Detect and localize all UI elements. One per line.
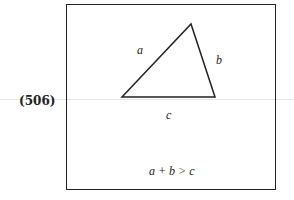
side-label-b: b xyxy=(216,53,222,68)
triangle-figure xyxy=(0,0,294,200)
inequality-text: a + b > c xyxy=(149,164,195,179)
side-label-a: a xyxy=(137,43,143,58)
triangle xyxy=(122,24,215,97)
side-label-c: c xyxy=(166,108,171,123)
